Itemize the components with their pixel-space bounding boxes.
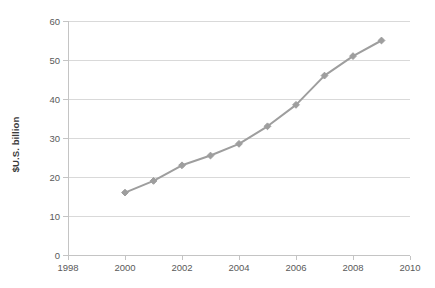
x-axis-tick-mark: [353, 256, 354, 260]
y-axis-title: $U.S. billion: [6, 0, 26, 288]
y-axis-tick-mark: [63, 138, 68, 139]
y-axis-tick-label: 30: [34, 133, 60, 144]
gridline-horizontal: [68, 138, 410, 139]
y-axis-tick-mark: [63, 21, 68, 22]
x-axis-tick-mark: [296, 256, 297, 260]
y-axis-title-label: $U.S. billion: [11, 116, 22, 172]
y-axis-tick-label: 0: [34, 250, 60, 261]
x-axis-tick-label: 2002: [160, 262, 204, 273]
y-axis-tick-label: 40: [34, 94, 60, 105]
x-axis-tick-label: 2004: [217, 262, 261, 273]
x-axis-tick-mark: [239, 256, 240, 260]
y-axis-tick-label: 60: [34, 16, 60, 27]
y-axis-line: [68, 21, 69, 255]
x-axis-tick-label: 2010: [388, 262, 432, 273]
x-axis-tick-label: 1998: [46, 262, 90, 273]
x-axis-tick-mark: [410, 256, 411, 260]
x-axis-tick-label: 2006: [274, 262, 318, 273]
x-axis-tick-mark: [125, 256, 126, 260]
gridline-horizontal: [68, 60, 410, 61]
y-axis-tick-mark: [63, 60, 68, 61]
y-axis-tick-label: 50: [34, 55, 60, 66]
line-chart: $U.S. billion 0102030405060 199820002002…: [0, 0, 435, 288]
x-axis-tick-mark: [182, 256, 183, 260]
x-axis-tick-label: 2000: [103, 262, 147, 273]
y-axis-tick-mark: [63, 99, 68, 100]
gridline-horizontal: [68, 21, 410, 22]
y-axis-tick-mark: [63, 216, 68, 217]
y-axis-tick-mark: [63, 177, 68, 178]
x-axis-tick-mark: [68, 256, 69, 260]
gridline-horizontal: [68, 216, 410, 217]
y-axis-tick-labels: 0102030405060: [30, 0, 60, 288]
x-axis-tick-label: 2008: [331, 262, 375, 273]
y-axis-tick-label: 10: [34, 211, 60, 222]
gridline-horizontal: [68, 177, 410, 178]
gridline-horizontal: [68, 99, 410, 100]
y-axis-tick-label: 20: [34, 172, 60, 183]
plot-area: [68, 21, 410, 255]
